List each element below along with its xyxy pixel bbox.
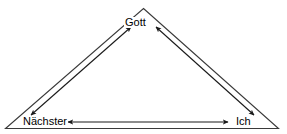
triangle-relationship-diagram: Gott Nächster Ich — [0, 0, 287, 134]
arrow-gott-ich — [156, 27, 254, 115]
vertex-label-naechster: Nächster — [22, 116, 68, 127]
vertex-label-gott: Gott — [124, 17, 147, 28]
arrow-naechster-gott — [31, 27, 131, 115]
vertex-label-ich: Ich — [235, 116, 252, 127]
